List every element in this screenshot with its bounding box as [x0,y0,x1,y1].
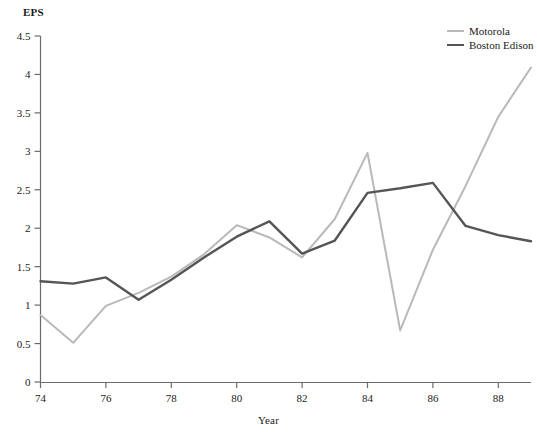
y-axis-tick-label: 1.5 [0,261,31,273]
x-axis-title: Year [0,414,537,426]
legend-item: Motorola [447,24,533,38]
x-axis-tick-label: 86 [427,392,438,404]
y-axis-ticks [35,36,41,382]
y-axis-tick-label: 3 [0,145,31,157]
y-axis-tick-label: 0.5 [0,338,31,350]
y-axis-tick-label: 2.5 [0,184,31,196]
axis-lines [41,36,532,383]
x-axis-tick-label: 76 [100,392,111,404]
x-axis-tick-label: 82 [297,392,308,404]
y-axis-tick-label: 2 [0,222,31,234]
chart-legend: MotorolaBoston Edison [447,24,533,52]
x-axis-tick-label: 80 [231,392,242,404]
x-axis-tick-label: 88 [493,392,504,404]
legend-swatch-icon [447,30,464,32]
legend-item-label: Boston Edison [469,38,533,52]
series-line-motorola [41,68,532,343]
x-axis-tick-label: 78 [166,392,177,404]
y-axis-tick-label: 4.5 [0,30,31,42]
legend-item: Boston Edison [447,38,533,52]
eps-line-chart: EPS Year 00.511.522.533.544.5 7476788082… [0,0,537,436]
y-axis-tick-label: 0 [0,376,31,388]
x-axis-tick-label: 84 [362,392,373,404]
y-axis-tick-label: 4 [0,68,31,80]
legend-swatch-icon [447,44,464,46]
x-axis-tick-label: 74 [35,392,46,404]
y-axis-tick-label: 3.5 [0,107,31,119]
y-axis-tick-label: 1 [0,299,31,311]
legend-item-label: Motorola [469,24,510,38]
data-series-group [41,68,532,343]
y-axis-title: EPS [23,6,44,18]
plot-area [0,0,537,436]
